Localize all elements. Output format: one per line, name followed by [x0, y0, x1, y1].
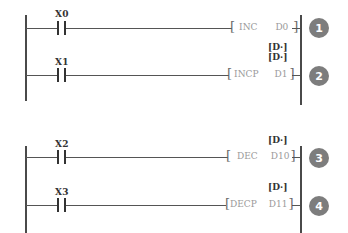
wire-left — [26, 205, 58, 206]
bracket-close-icon: ] — [288, 197, 293, 210]
wire-right — [66, 157, 228, 158]
no-contact-icon[interactable] — [57, 198, 66, 212]
no-contact-icon[interactable] — [57, 68, 66, 82]
wire-left — [26, 157, 58, 158]
bracket-open-icon: [ — [226, 149, 231, 162]
instruction-operand: D11 — [269, 199, 288, 209]
contact-label-x1: X1 — [55, 57, 69, 67]
bracket-open-icon: [ — [230, 20, 235, 33]
no-contact-icon[interactable] — [57, 150, 66, 164]
bracket-close-icon: ] — [293, 20, 298, 33]
instruction-name: INC — [239, 22, 257, 32]
wire-left — [26, 75, 58, 76]
instruction-box-inc[interactable]: [ INC D0 ] — [230, 20, 298, 33]
instruction-operand: D0 — [275, 22, 288, 32]
wire-right — [66, 75, 229, 76]
operand-label-d: [D·] — [268, 135, 287, 145]
contact-label-x2: X2 — [55, 139, 69, 149]
operand-label-d: [D·] — [268, 182, 287, 192]
instruction-operand: D10 — [271, 151, 290, 161]
instruction-name: INCP — [234, 69, 258, 79]
instruction-box-dec[interactable]: [ DEC D10 ] — [226, 149, 296, 162]
instruction-box-decp[interactable]: [ DECP D11 ] — [225, 197, 294, 210]
marker-circle-4: 4 — [309, 196, 329, 216]
bracket-open-icon: [ — [227, 67, 232, 80]
wire-right — [66, 28, 232, 29]
right-power-rail-top — [300, 15, 302, 105]
operand-label-d: [D·] — [268, 52, 287, 62]
contact-label-x0: X0 — [55, 9, 69, 19]
wire-to-rail — [292, 28, 300, 29]
instruction-operand: D1 — [274, 69, 287, 79]
no-contact-icon[interactable] — [57, 21, 66, 35]
marker-circle-3: 3 — [309, 148, 329, 168]
marker-circle-1: 1 — [309, 18, 329, 38]
wire-left — [26, 28, 58, 29]
marker-circle-2: 2 — [309, 66, 329, 86]
right-power-rail-bottom — [300, 146, 302, 233]
left-power-rail-bottom — [25, 146, 27, 233]
contact-label-x3: X3 — [55, 187, 69, 197]
bracket-close-icon: ] — [289, 67, 294, 80]
operand-label-d: [D·] — [268, 42, 287, 52]
wire-to-rail — [292, 75, 300, 76]
wire-right — [66, 205, 226, 206]
wire-to-rail — [292, 205, 300, 206]
bracket-close-icon: ] — [290, 149, 295, 162]
instruction-box-incp[interactable]: [ INCP D1 ] — [227, 67, 294, 80]
wire-to-rail — [292, 157, 300, 158]
instruction-name: DECP — [230, 199, 257, 209]
instruction-name: DEC — [237, 151, 258, 161]
